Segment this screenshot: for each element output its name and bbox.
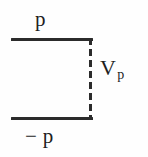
lower-level-line — [11, 117, 93, 120]
label-lower-level: − p — [25, 126, 54, 147]
label-vp-subscript: p — [117, 67, 124, 82]
label-upper-level: p — [35, 9, 46, 30]
label-potential-vp: Vp — [100, 57, 125, 82]
dashed-vertical-connector — [89, 38, 92, 120]
figure-canvas: p − p Vp — [0, 0, 148, 157]
label-vp-base: V — [100, 55, 116, 80]
upper-level-line — [11, 38, 93, 41]
